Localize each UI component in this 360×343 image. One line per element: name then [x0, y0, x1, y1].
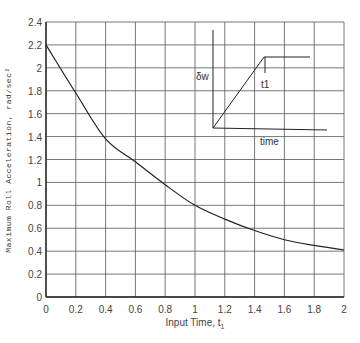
y-tick-label: 1.8: [28, 86, 42, 97]
x-axis-label: Input Time, t1: [166, 317, 225, 330]
y-tick-label: 2: [36, 63, 42, 74]
y-tick-label: 0.2: [28, 269, 42, 280]
x-tick-label: 0.4: [99, 304, 113, 315]
inset-x-label: time: [260, 136, 279, 147]
x-tick-label: 0.2: [69, 304, 83, 315]
y-tick-label: 2.2: [28, 40, 42, 51]
x-axis-ticks: 00.20.40.60.811.21.41.61.82: [43, 304, 347, 315]
grid: [46, 22, 344, 297]
y-axis-ticks: 00.20.40.60.811.21.41.61.822.22.4: [28, 17, 42, 303]
y-tick-label: 0.6: [28, 223, 42, 234]
x-tick-label: 1: [192, 304, 198, 315]
y-tick-label: 0: [36, 292, 42, 303]
y-axis-label: Maximum Roll Acceleration, rad/sec²: [4, 67, 13, 253]
y-tick-label: 0.8: [28, 200, 42, 211]
inset-marker-label: t1: [261, 79, 270, 90]
y-tick-label: 1.4: [28, 132, 42, 143]
inset-diagram: δw t1 time: [196, 30, 327, 147]
x-tick-label: 0: [43, 304, 49, 315]
x-tick-label: 1.8: [307, 304, 321, 315]
x-tick-label: 2: [341, 304, 347, 315]
roll-acceleration-chart: 00.20.40.60.811.21.41.61.822.22.4 00.20.…: [0, 0, 360, 343]
y-tick-label: 1.6: [28, 109, 42, 120]
y-tick-label: 1.2: [28, 155, 42, 166]
inset-y-label: δw: [196, 71, 210, 82]
x-tick-label: 1.2: [218, 304, 232, 315]
y-tick-label: 0.4: [28, 246, 42, 257]
x-tick-label: 0.6: [128, 304, 142, 315]
y-tick-label: 1: [36, 177, 42, 188]
x-tick-label: 1.4: [248, 304, 262, 315]
x-tick-label: 0.8: [158, 304, 172, 315]
y-tick-label: 2.4: [28, 17, 42, 28]
x-tick-label: 1.6: [277, 304, 291, 315]
